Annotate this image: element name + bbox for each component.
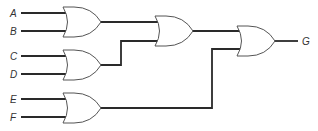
input-label-e: E xyxy=(10,94,17,105)
input-label-a: A xyxy=(9,8,17,19)
input-label-c: C xyxy=(10,51,18,62)
or-gate-1-icon xyxy=(63,7,101,37)
or-gate-3-icon xyxy=(63,93,101,123)
or-gate-5-icon xyxy=(237,26,275,56)
input-label-b: B xyxy=(10,26,17,37)
logic-circuit-diagram: A B C D E F G xyxy=(0,0,318,131)
or-gate-4-icon xyxy=(155,16,193,46)
output-label-g: G xyxy=(302,36,310,47)
input-wires xyxy=(21,13,66,117)
wire-or2-to-or4 xyxy=(100,41,158,65)
input-label-f: F xyxy=(10,112,17,123)
input-label-d: D xyxy=(10,69,17,80)
or-gate-2-icon xyxy=(63,50,101,80)
